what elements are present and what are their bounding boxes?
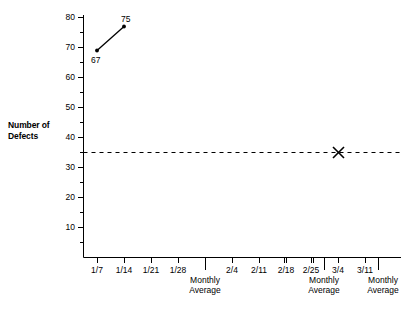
x-tick-label: 2/4 bbox=[226, 266, 238, 275]
data-point-label: 75 bbox=[121, 15, 130, 24]
y-tick-label: 70 bbox=[53, 43, 75, 52]
monthly-average-label-line2: Average bbox=[367, 285, 399, 295]
monthly-average-label: Monthly Average bbox=[189, 275, 221, 295]
monthly-average-label-line1: Monthly bbox=[308, 275, 340, 285]
monthly-average-label-line2: Average bbox=[308, 285, 340, 295]
x-tick-label: 1/28 bbox=[170, 266, 187, 275]
x-tick-label: 3/4 bbox=[332, 266, 344, 275]
x-tick-label: 1/14 bbox=[116, 266, 133, 275]
x-tick-label: 2/18 bbox=[278, 266, 295, 275]
y-tick-label: 80 bbox=[53, 13, 75, 22]
data-point-marker bbox=[122, 25, 126, 29]
defects-run-chart: Number of Defects 80 70 60 50 40 30 20 1… bbox=[0, 0, 411, 313]
monthly-average-label-line2: Average bbox=[189, 285, 221, 295]
x-tick-label: 3/11 bbox=[357, 266, 373, 275]
x-week-ticks bbox=[98, 258, 366, 264]
x-tick-label: 1/7 bbox=[91, 266, 103, 275]
x-tick-label: 2/11 bbox=[251, 266, 267, 275]
y-tick-label: 30 bbox=[53, 163, 75, 172]
defects-line-segment bbox=[97, 27, 124, 51]
data-point-marker bbox=[95, 49, 99, 53]
monthly-average-label: Monthly Average bbox=[367, 275, 399, 295]
y-tick-label: 60 bbox=[53, 73, 75, 82]
y-tick-label: 50 bbox=[53, 103, 75, 112]
y-tick-label: 20 bbox=[53, 193, 75, 202]
y-tick-label: 10 bbox=[53, 223, 75, 232]
monthly-average-label-line1: Monthly bbox=[189, 275, 221, 285]
x-tick-label: 1/21 bbox=[143, 266, 160, 275]
monthly-average-label: Monthly Average bbox=[308, 275, 340, 295]
x-tick-label: 2/25 bbox=[303, 266, 320, 275]
monthly-average-label-line1: Monthly bbox=[367, 275, 399, 285]
y-axis-title-line1: Number of bbox=[8, 120, 68, 131]
y-tick-label: 40 bbox=[53, 133, 75, 142]
data-point-label: 67 bbox=[91, 56, 100, 65]
